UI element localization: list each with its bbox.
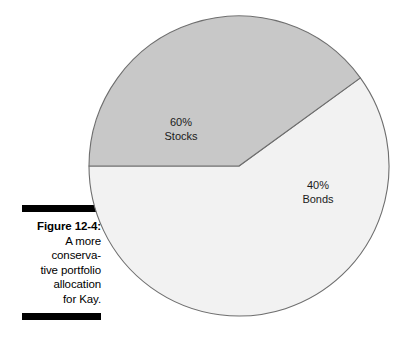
pie-label-bonds-name: Bonds [278, 193, 358, 207]
pie-chart-svg [86, 12, 392, 320]
pie-label-bonds-percent: 40% [278, 179, 358, 193]
pie-chart: 60% Stocks 40% Bonds [86, 12, 392, 320]
pie-slices [89, 16, 389, 316]
pie-label-stocks-name: Stocks [141, 130, 221, 144]
pie-label-stocks: 60% Stocks [141, 116, 221, 143]
pie-label-bonds: 40% Bonds [278, 179, 358, 206]
figure-page: Figure 12-4: A more conserva- tive portf… [0, 0, 412, 338]
pie-label-stocks-percent: 60% [141, 116, 221, 130]
